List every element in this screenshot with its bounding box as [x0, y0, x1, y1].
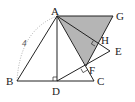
label-a: A [51, 5, 59, 17]
label-c: C [97, 75, 104, 87]
label-d: D [52, 85, 60, 97]
label-f: F [89, 64, 95, 76]
right-angle-d [53, 77, 57, 81]
label-b: B [6, 75, 13, 87]
right-angle-f [81, 69, 88, 73]
segment-ab [17, 16, 57, 81]
label-e: E [115, 45, 122, 57]
label-h: H [101, 34, 109, 46]
geometry-diagram: A G H E F B D C 4 [0, 0, 135, 102]
length-label-ab: 4 [22, 38, 27, 48]
label-g: G [116, 10, 124, 22]
